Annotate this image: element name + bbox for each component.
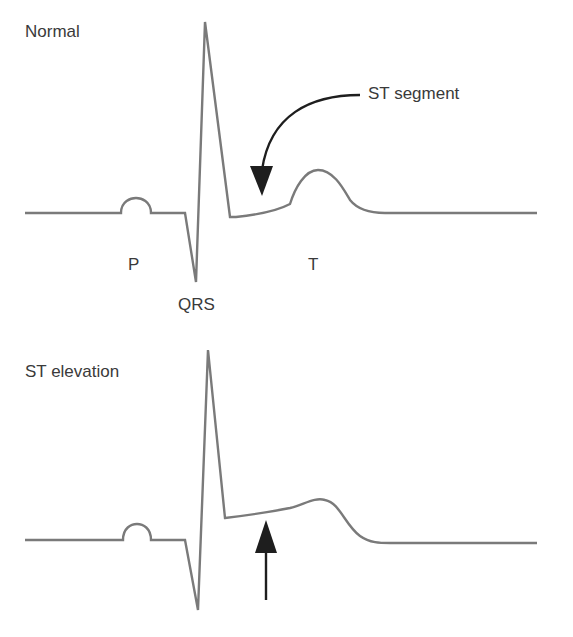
wave-label-t: T — [308, 255, 318, 275]
wave-label-qrs: QRS — [178, 295, 215, 315]
wave-label-p: P — [128, 255, 139, 275]
ecg-diagram — [0, 0, 573, 637]
st-elevation-ecg-trace — [25, 350, 537, 610]
st-elevation-arrowhead-icon — [255, 520, 277, 553]
panel-title-normal: Normal — [25, 22, 80, 42]
st-segment-curved-arrow — [262, 95, 360, 170]
st-segment-arrowhead-icon — [250, 166, 273, 196]
panel-title-st-elevation: ST elevation — [25, 362, 119, 382]
annotation-st-segment: ST segment — [368, 84, 459, 104]
normal-ecg-trace — [25, 22, 537, 282]
